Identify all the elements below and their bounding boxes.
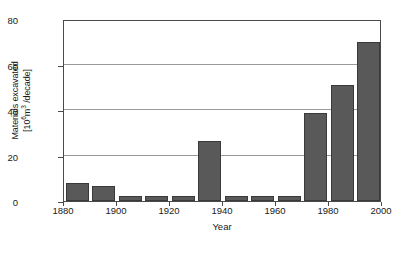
y-axis-label-line2: [106m3 /decade] bbox=[21, 61, 33, 139]
y-axis-label: Materials excavated [106m3 /decade] bbox=[0, 0, 42, 200]
chart-figure: Materials excavated [106m3 /decade] 0204… bbox=[0, 0, 404, 260]
x-tick-label-1900: 1900 bbox=[96, 205, 136, 216]
x-axis-label: Year bbox=[63, 221, 381, 232]
bar-1930 bbox=[198, 141, 221, 201]
y-tick-label-60: 60 bbox=[0, 60, 18, 71]
bar-1880 bbox=[66, 183, 89, 201]
gridline-y-60 bbox=[64, 64, 380, 65]
bar-1910 bbox=[145, 196, 168, 201]
y-axis-label-suffix: /decade] bbox=[21, 69, 31, 105]
x-tick-mark-1940 bbox=[222, 202, 223, 206]
x-tick-label-1940: 1940 bbox=[202, 205, 242, 216]
y-tick-label-40: 40 bbox=[0, 106, 18, 117]
x-tick-mark-2000 bbox=[381, 202, 382, 206]
bar-1960 bbox=[278, 196, 301, 201]
bar-1890 bbox=[92, 186, 115, 201]
x-tick-mark-1960 bbox=[275, 202, 276, 206]
x-tick-mark-1880 bbox=[63, 202, 64, 206]
y-axis-label-mid: m bbox=[21, 108, 31, 115]
x-tick-label-2000: 2000 bbox=[361, 205, 401, 216]
y-tick-label-0: 0 bbox=[0, 197, 18, 208]
bar-1970 bbox=[304, 113, 327, 201]
bar-1920 bbox=[172, 196, 195, 201]
bar-1900 bbox=[119, 196, 142, 201]
bar-1940 bbox=[225, 196, 248, 201]
y-axis-label-line1: Materials excavated bbox=[10, 61, 22, 139]
bar-1950 bbox=[251, 196, 274, 201]
x-tick-label-1920: 1920 bbox=[149, 205, 189, 216]
x-tick-mark-1980 bbox=[328, 202, 329, 206]
plot-area bbox=[63, 20, 381, 202]
bar-1990 bbox=[357, 42, 380, 201]
bar-1980 bbox=[331, 85, 354, 201]
y-tick-label-80: 80 bbox=[0, 15, 18, 26]
y-tick-label-20: 20 bbox=[0, 151, 18, 162]
x-tick-mark-1900 bbox=[116, 202, 117, 206]
x-tick-label-1880: 1880 bbox=[43, 205, 83, 216]
plot-inner bbox=[64, 21, 380, 201]
x-tick-mark-1920 bbox=[169, 202, 170, 206]
y-axis-label-prefix: [10 bbox=[21, 119, 31, 131]
x-tick-label-1960: 1960 bbox=[255, 205, 295, 216]
x-tick-label-1980: 1980 bbox=[308, 205, 348, 216]
